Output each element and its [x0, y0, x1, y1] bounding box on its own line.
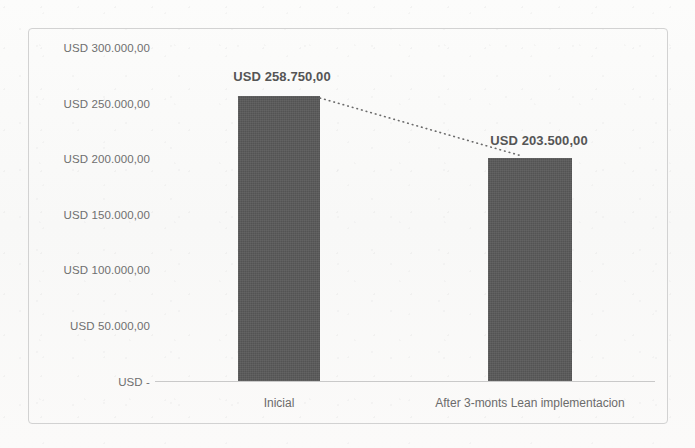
chart-plot-border [28, 28, 668, 424]
